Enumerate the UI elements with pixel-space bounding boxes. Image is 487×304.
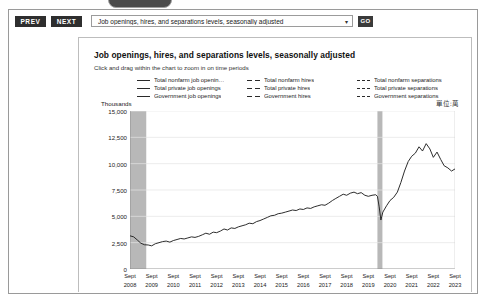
legend-item[interactable]: Total private job openings xyxy=(137,84,247,92)
x-tick-month: Sept xyxy=(210,272,223,281)
y-tick-label: 12,500 xyxy=(108,134,127,141)
x-tick-month: Sept xyxy=(167,272,180,281)
legend-item[interactable]: Government job openings xyxy=(137,92,247,100)
x-tick-month: Sept xyxy=(124,272,137,281)
data-line xyxy=(130,144,455,246)
x-tick-label: Sept2016 xyxy=(297,272,310,289)
next-button[interactable]: NEXT xyxy=(51,16,82,27)
x-tick-label: Sept2015 xyxy=(275,272,288,289)
legend-item[interactable]: Total private hires xyxy=(247,84,357,92)
legend-column-separations: Total nonfarm separations Total private … xyxy=(357,76,467,101)
line-swatch-dotted-icon xyxy=(357,94,370,99)
x-tick-label: Sept2010 xyxy=(167,272,180,289)
x-tick-label: Sept2022 xyxy=(427,272,440,289)
x-tick-label: Sept2021 xyxy=(405,272,418,289)
x-tick-year: 2021 xyxy=(405,281,418,290)
cutoff-logo xyxy=(108,0,172,8)
x-axis-tick-labels: Sept2008Sept2009Sept2010Sept2011Sept2012… xyxy=(130,272,455,294)
legend-label: Total nonfarm job openin… xyxy=(154,77,224,83)
legend-label: Total nonfarm separations xyxy=(374,77,442,83)
x-tick-month: Sept xyxy=(362,272,375,281)
x-tick-year: 2019 xyxy=(362,281,375,290)
x-tick-label: Sept2012 xyxy=(210,272,223,289)
x-tick-label: Sept2013 xyxy=(232,272,245,289)
x-tick-month: Sept xyxy=(297,272,310,281)
x-tick-year: 2018 xyxy=(340,281,353,290)
x-tick-label: Sept2009 xyxy=(145,272,158,289)
line-swatch-dashed-icon xyxy=(247,94,260,99)
chart-card: Job openings, hires, and separations lev… xyxy=(78,37,472,292)
x-tick-month: Sept xyxy=(449,272,462,281)
y-tick-label: 5,000 xyxy=(112,213,127,220)
x-tick-label: Sept2018 xyxy=(340,272,353,289)
line-swatch-solid-icon xyxy=(137,78,150,83)
legend-label: Total private separations xyxy=(374,85,438,91)
line-swatch-dashed-icon xyxy=(247,86,260,91)
x-tick-year: 2014 xyxy=(254,281,267,290)
x-tick-year: 2017 xyxy=(319,281,332,290)
line-swatch-solid-icon xyxy=(137,94,150,99)
series-select[interactable]: Job openings, hires, and separations lev… xyxy=(91,15,353,27)
x-tick-month: Sept xyxy=(275,272,288,281)
legend-label: Government hires xyxy=(264,93,311,99)
y-tick-label: 2,500 xyxy=(112,239,127,246)
x-tick-label: Sept2011 xyxy=(189,272,201,289)
x-tick-month: Sept xyxy=(405,272,418,281)
legend-label: Total private hires xyxy=(264,85,310,91)
x-tick-month: Sept xyxy=(319,272,332,281)
legend-item[interactable]: Total private separations xyxy=(357,84,467,92)
x-tick-label: Sept2019 xyxy=(362,272,375,289)
legend-label: Total private job openings xyxy=(154,85,221,91)
x-tick-label: Sept2014 xyxy=(254,272,267,289)
chevron-down-icon: ▾ xyxy=(340,18,352,25)
legend-item[interactable]: Total nonfarm job openin… xyxy=(137,76,247,84)
legend-item[interactable]: Total nonfarm hires xyxy=(247,76,357,84)
legend-item[interactable]: Government hires xyxy=(247,92,357,100)
x-tick-year: 2015 xyxy=(275,281,288,290)
x-tick-month: Sept xyxy=(427,272,440,281)
x-tick-year: 2011 xyxy=(189,281,201,290)
chart-svg xyxy=(130,111,455,269)
x-tick-label: Sept2023 xyxy=(449,272,462,289)
legend-label: Government job openings xyxy=(154,93,221,99)
x-tick-year: 2012 xyxy=(210,281,223,290)
chart-plot-area[interactable]: 02,5005,0007,50010,00012,50015,000 xyxy=(130,111,455,269)
x-tick-month: Sept xyxy=(384,272,397,281)
go-button[interactable]: GO xyxy=(358,16,373,27)
legend-label: Government separations xyxy=(374,93,439,99)
line-swatch-dotted-icon xyxy=(357,78,370,83)
x-tick-month: Sept xyxy=(254,272,267,281)
x-tick-year: 2016 xyxy=(297,281,310,290)
y-tick-label: 7,500 xyxy=(112,187,127,194)
legend-column-openings: Total nonfarm job openin… Total private … xyxy=(137,76,247,101)
y-tick-label: 10,000 xyxy=(108,160,127,167)
chart-legend: Total nonfarm job openin… Total private … xyxy=(137,76,467,101)
chart-subtitle: Click and drag within the chart to zoom … xyxy=(94,64,249,71)
x-tick-month: Sept xyxy=(189,272,201,281)
x-tick-year: 2023 xyxy=(449,281,462,290)
x-tick-year: 2009 xyxy=(145,281,158,290)
x-tick-year: 2013 xyxy=(232,281,245,290)
legend-label: Total nonfarm hires xyxy=(264,77,314,83)
line-swatch-solid-icon xyxy=(137,86,150,91)
legend-item[interactable]: Total nonfarm separations xyxy=(357,76,467,84)
x-tick-month: Sept xyxy=(340,272,353,281)
x-tick-label: Sept2020 xyxy=(384,272,397,289)
y-axis-label: Thousands xyxy=(101,100,132,107)
x-tick-year: 2022 xyxy=(427,281,440,290)
x-tick-year: 2008 xyxy=(124,281,137,290)
x-tick-year: 2020 xyxy=(384,281,397,290)
y-tick-label: 15,000 xyxy=(108,108,127,115)
chart-toolbar: PREV NEXT Job openings, hires, and separ… xyxy=(9,10,477,32)
line-swatch-dashed-icon xyxy=(247,78,260,83)
page-panel: PREV NEXT Job openings, hires, and separ… xyxy=(8,9,478,294)
line-swatch-dotted-icon xyxy=(357,86,370,91)
prev-button[interactable]: PREV xyxy=(15,16,46,27)
x-tick-year: 2010 xyxy=(167,281,180,290)
cutoff-toolbar-strip xyxy=(0,0,487,9)
legend-column-hires: Total nonfarm hires Total private hires … xyxy=(247,76,357,101)
chart-title: Job openings, hires, and separations lev… xyxy=(94,50,355,60)
series-select-value: Job openings, hires, and separations lev… xyxy=(92,18,340,25)
units-note: 單位:萬 xyxy=(436,98,459,108)
x-tick-month: Sept xyxy=(232,272,245,281)
